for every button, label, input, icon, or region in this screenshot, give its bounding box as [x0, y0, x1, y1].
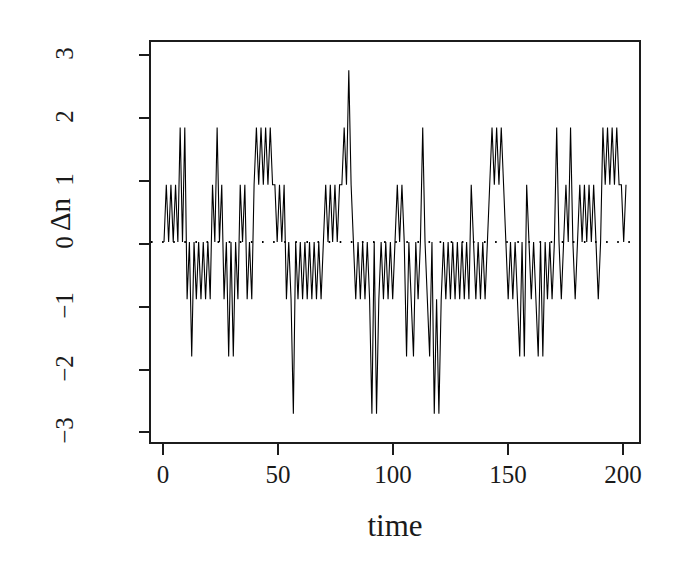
series-canvas — [151, 42, 639, 442]
figure-root: 3 2 1 0 −1 −2 −3 Δn 0 50 100 150 200 — [0, 0, 677, 577]
y-tick-mark — [139, 431, 150, 433]
y-tick-mark — [139, 54, 150, 56]
x-tick-label: 0 — [118, 462, 208, 487]
data-series-line — [164, 70, 626, 414]
y-tick-mark — [139, 117, 150, 119]
y-tick-mark — [139, 180, 150, 182]
x-tick-label: 50 — [233, 462, 323, 487]
x-tick-mark — [622, 444, 624, 455]
y-tick-mark — [139, 243, 150, 245]
plot-area — [149, 40, 641, 444]
y-axis-tick-labels: 3 2 1 0 −1 −2 −3 — [0, 0, 145, 577]
x-tick-mark — [277, 444, 279, 455]
y-axis-title: Δn — [46, 175, 75, 255]
x-tick-mark — [162, 444, 164, 455]
x-axis-title: time — [149, 510, 641, 541]
x-tick-mark — [507, 444, 509, 455]
y-tick-mark — [139, 306, 150, 308]
x-tick-label: 100 — [348, 462, 438, 487]
y-tick-label: −3 — [52, 367, 77, 495]
x-tick-label: 200 — [578, 462, 668, 487]
x-tick-label: 150 — [463, 462, 553, 487]
x-axis-ticks — [149, 445, 641, 459]
x-tick-mark — [392, 444, 394, 455]
y-tick-mark — [139, 369, 150, 371]
